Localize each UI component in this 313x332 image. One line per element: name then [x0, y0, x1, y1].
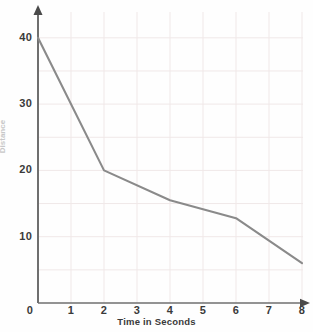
- x-tick-label: 2: [92, 304, 116, 316]
- x-tick-label: 0: [18, 304, 42, 316]
- x-tick-label: 1: [59, 304, 83, 316]
- y-tick-label: 10: [6, 230, 32, 242]
- line-chart: 10203040 012345678 Time in Seconds Dista…: [0, 0, 313, 332]
- y-axis-arrow-icon: [34, 5, 43, 15]
- y-tick-label: 20: [6, 163, 32, 175]
- plot-area: [0, 0, 313, 332]
- y-tick-label: 30: [6, 97, 32, 109]
- x-tick-label: 7: [257, 304, 281, 316]
- x-tick-label: 5: [191, 304, 215, 316]
- vertical-gridlines: [71, 12, 302, 303]
- x-tick-label: 3: [125, 304, 149, 316]
- x-tick-label: 6: [224, 304, 248, 316]
- x-tick-label: 8: [290, 304, 313, 316]
- y-axis-title: Distance: [0, 105, 7, 169]
- x-axis-title: Time in Seconds: [0, 316, 313, 327]
- x-tick-label: 4: [158, 304, 182, 316]
- y-tick-label: 40: [6, 31, 32, 43]
